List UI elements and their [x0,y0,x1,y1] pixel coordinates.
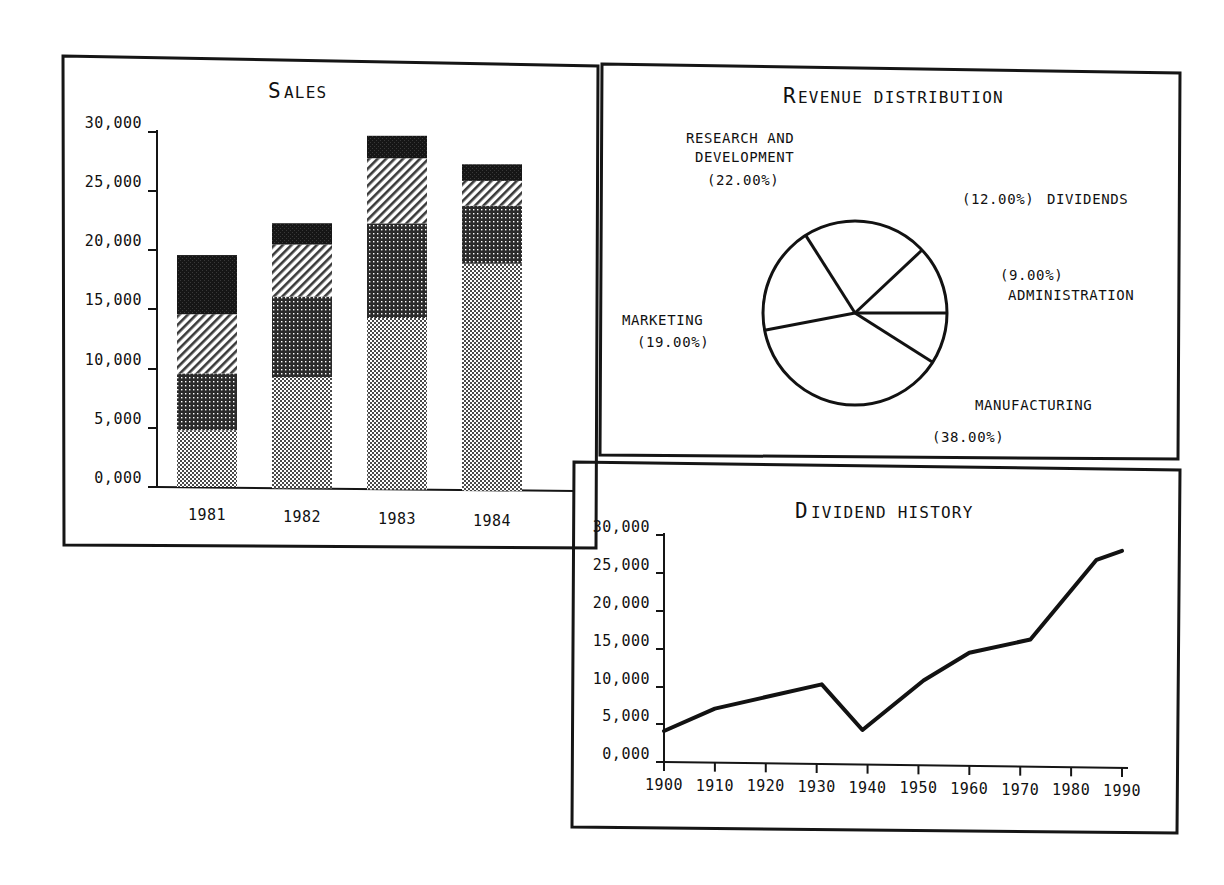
dividend-line-series [664,551,1122,731]
pie-label-admin-name: ADMINISTRATION [1008,287,1134,303]
pie-label-rd-pct: (22.00%) [707,172,779,188]
bar-segment [177,314,237,373]
bar-segment [272,297,332,377]
dividend-ytick-10000: 10,000 [593,670,650,688]
sales-cat-1983: 1983 [378,510,416,528]
dividend-xtick-label: 1900 [645,776,683,794]
sales-cat-1982: 1982 [283,508,321,526]
dividend-xtick-label: 1980 [1052,781,1090,799]
pie-label-manufacturing-pct: (38.00%) [932,429,1004,445]
sales-title: ALES [284,83,327,102]
bar-segment [367,318,427,490]
sales-ytick-0: 0,000 [94,469,142,487]
sales-ytick-15000: 15,000 [85,291,142,309]
dividend-xtick-label: 1910 [696,777,734,795]
dividend-ytick-15000: 15,000 [593,632,650,650]
pie-label-admin-pct: (9.00%) [1000,267,1063,283]
dividend-title: IVIDEND HISTORY [811,503,974,522]
dividend-xtick-label: 1940 [848,779,886,797]
bar-segment [177,255,237,314]
dividend-xtick-label: 1950 [899,779,937,797]
bar-segment [462,181,522,206]
bar-segment [367,136,427,158]
pie-slice-divider [806,235,855,313]
dividend-xtick-label: 1920 [747,777,785,795]
pie-slice-divider [855,250,922,313]
dividend-xtick-label: 1970 [1001,781,1039,799]
revenue-panel: R EVENUE DISTRIBUTION RESEARCH AND DEVEL… [600,64,1180,459]
dividend-x-tick-labels: 1900191019201930194019501960197019801990 [645,776,1141,800]
revenue-pie [763,221,947,405]
bar-segment [462,264,522,491]
dividend-x-axis [664,762,1128,768]
sales-title-initial: S [268,79,282,103]
plot-sheet: S ALES 30,000 25,000 20,000 15,000 10,00… [0,0,1224,885]
dividend-panel: D IVIDEND HISTORY 30,000 25,000 20,000 1… [572,462,1180,833]
sales-cat-1981: 1981 [188,506,226,524]
sales-y-ticks [148,132,157,487]
dividend-ytick-0: 0,000 [602,745,650,763]
dividend-ytick-30000: 30,000 [593,518,650,536]
revenue-panel-frame [600,64,1180,459]
pie-label-dividends-name: DIVIDENDS [1047,191,1128,207]
dividend-xtick-label: 1930 [798,778,836,796]
bar-segment [272,377,332,488]
dividend-title-initial: D [795,499,809,523]
bar-segment [462,206,522,264]
dividend-ytick-25000: 25,000 [593,556,650,574]
bar-segment [462,164,522,181]
bar-segment [367,158,427,223]
pie-label-marketing-name: MARKETING [622,312,703,328]
revenue-title-initial: R [783,84,797,108]
dividend-xtick-label: 1960 [950,780,988,798]
sales-ytick-30000: 30,000 [85,114,142,132]
pie-label-dividends-pct: (12.00%) [962,191,1034,207]
pie-label-marketing-pct: (19.00%) [637,334,709,350]
printed-plot-page: S ALES 30,000 25,000 20,000 15,000 10,00… [0,0,1224,885]
pie-slice-divider [765,313,855,330]
sales-ytick-20000: 20,000 [85,232,142,250]
sales-ytick-10000: 10,000 [85,351,142,369]
revenue-title: EVENUE DISTRIBUTION [798,88,1004,107]
sales-cat-1984: 1984 [473,512,511,530]
pie-label-rd-line2: DEVELOPMENT [695,149,794,165]
bar-segment [272,245,332,297]
bar-segment [272,223,332,244]
pie-label-manufacturing-name: MANUFACTURING [975,397,1092,413]
bar-segment [177,430,237,487]
bar-segment [177,373,237,430]
sales-panel: S ALES 30,000 25,000 20,000 15,000 10,00… [63,56,598,548]
dividend-y-ticks [656,535,664,762]
pie-slice-divider [855,313,933,362]
dividend-ytick-20000: 20,000 [593,594,650,612]
dividend-ytick-5000: 5,000 [602,707,650,725]
sales-ytick-5000: 5,000 [94,410,142,428]
pie-label-rd-line1: RESEARCH AND [686,130,794,146]
sales-bars [177,136,522,491]
dividend-xtick-label: 1990 [1103,782,1141,800]
sales-ytick-25000: 25,000 [85,173,142,191]
bar-segment [367,223,427,318]
